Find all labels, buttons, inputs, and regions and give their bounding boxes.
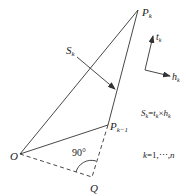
label-Pk-1: Pk−1 (109, 120, 128, 134)
index-range: k=1,⋯,n (143, 150, 175, 160)
t-axis-arrow (145, 36, 153, 70)
dashed-Pk-1-Q (92, 125, 108, 177)
label-hk: hk (172, 71, 180, 83)
label-Sk: Sk (66, 44, 76, 58)
angle-90-label: 90° (72, 147, 86, 158)
label-O: O (10, 150, 18, 162)
segment-Pk-Pk-1 (108, 10, 138, 125)
right-angle-arc (76, 160, 96, 172)
label-tk: tk (156, 31, 162, 43)
label-Q: Q (90, 182, 98, 194)
formula-sk: Sk=tk×hk (141, 108, 171, 119)
triangle-area-diagram: Pk Pk−1 O Q 90° Sk tk hk Sk=tk×hk k=1,⋯,… (0, 0, 186, 196)
label-Pk: Pk (141, 6, 153, 20)
h-axis-arrow (145, 70, 170, 76)
diagram-svg: Pk Pk−1 O Q 90° Sk tk hk Sk=tk×hk k=1,⋯,… (0, 0, 186, 196)
segment-O-Pk-1 (20, 125, 108, 154)
